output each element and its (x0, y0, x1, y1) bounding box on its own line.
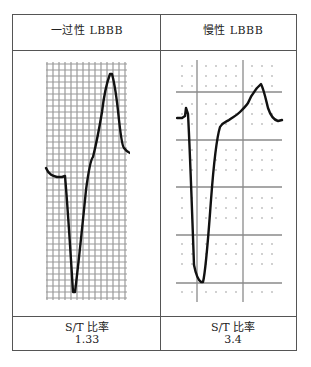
ecg-grid-fine (44, 60, 130, 304)
header-chronic-lbbb: 慢性 LBBB (163, 21, 303, 37)
header-transient-lbbb: 一过性 LBBB (17, 21, 157, 37)
ecg-transient-lbbb (44, 60, 130, 304)
header-divider (13, 50, 296, 51)
ratio-value: 3.4 (163, 334, 303, 346)
footer-divider (13, 316, 296, 317)
ecg-grid-dotted (176, 60, 284, 304)
ratio-transient: S/T 比率 1.33 (17, 322, 157, 346)
column-divider (160, 15, 161, 350)
ecg-chronic-lbbb (176, 60, 284, 304)
ratio-value: 1.33 (17, 334, 157, 346)
ratio-chronic: S/T 比率 3.4 (163, 322, 303, 346)
